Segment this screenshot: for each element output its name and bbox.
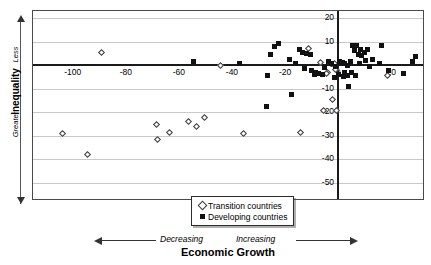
y-tick-label: -40 <box>306 153 334 163</box>
data-point-transition <box>153 121 160 128</box>
data-point-transition <box>154 136 161 143</box>
x-axis-title: Economic Growth <box>32 246 424 258</box>
data-point-developing <box>365 47 370 52</box>
data-point-developing <box>272 44 277 49</box>
legend-label-transition: Transition countries <box>208 201 282 211</box>
data-point-developing <box>268 52 273 57</box>
data-point-developing <box>308 52 313 57</box>
filled-square-icon <box>196 214 208 219</box>
x-axis-decreasing-line <box>102 240 156 241</box>
data-point-developing <box>352 48 357 53</box>
data-point-developing <box>265 73 270 78</box>
data-point-developing <box>342 70 347 75</box>
data-point-developing <box>367 64 372 69</box>
data-point-developing <box>346 84 351 89</box>
gridline-horizontal <box>33 18 423 19</box>
open-diamond-icon <box>196 202 208 209</box>
data-point-developing <box>353 73 358 78</box>
data-point-developing <box>341 74 346 79</box>
data-point-developing <box>333 64 338 69</box>
data-point-developing <box>348 59 353 64</box>
data-point-developing <box>302 66 307 71</box>
chart-legend: Transition countries Developing countrie… <box>191 196 294 226</box>
data-point-transition <box>84 151 91 158</box>
data-point-developing <box>289 92 294 97</box>
y-tick-label: -10 <box>306 83 334 93</box>
data-point-developing <box>293 61 298 66</box>
x-tick-label: -20 <box>271 67 299 77</box>
x-tick-label: -80 <box>112 67 140 77</box>
data-point-developing <box>320 72 325 77</box>
x-axis-left-arrow-icon <box>94 237 102 245</box>
data-point-transition <box>333 107 340 114</box>
data-point-developing <box>264 104 269 109</box>
data-point-developing <box>379 43 384 48</box>
y-axis-direction-less: Less <box>11 38 20 72</box>
y-axis-down-arrow-icon <box>17 197 25 204</box>
x-axis-line <box>33 64 423 66</box>
data-point-developing <box>401 71 406 76</box>
x-tick-label: -40 <box>218 67 246 77</box>
data-point-developing <box>312 72 317 77</box>
data-point-developing <box>377 61 382 66</box>
data-point-developing <box>237 61 242 66</box>
gridline-horizontal <box>33 136 423 137</box>
x-axis-direction-increasing: Increasing <box>236 234 275 244</box>
gridline-horizontal <box>33 159 423 160</box>
x-axis-direction-decreasing: Decreasing <box>160 234 203 244</box>
x-axis-increasing-line <box>296 240 350 241</box>
y-tick-label: 10 <box>306 36 334 46</box>
data-point-transition <box>297 128 304 135</box>
gridline-horizontal <box>33 183 423 184</box>
data-point-transition <box>166 128 173 135</box>
y-axis-line <box>337 11 339 199</box>
x-tick-label: -100 <box>59 67 87 77</box>
data-point-developing <box>336 72 341 77</box>
data-point-developing <box>410 59 415 64</box>
y-tick-label: -30 <box>306 130 334 140</box>
legend-item-transition: Transition countries <box>196 200 287 211</box>
data-point-transition <box>329 96 336 103</box>
data-point-transition <box>201 114 208 121</box>
x-axis-right-arrow-icon <box>350 237 358 245</box>
y-axis-direction-greater: Greater <box>11 104 20 146</box>
data-point-developing <box>191 59 196 64</box>
data-point-developing <box>322 65 327 70</box>
data-point-developing <box>413 54 418 59</box>
y-axis-up-arrow-icon <box>17 15 25 22</box>
plot-area: 20100-10-20-30-40-50-100-80-60-40-20020 <box>32 10 424 200</box>
y-tick-label: 20 <box>306 12 334 22</box>
y-axis-label-block: Inequality Less Greater <box>0 8 32 204</box>
gridline-horizontal <box>33 89 423 90</box>
data-point-transition <box>193 123 200 130</box>
gridline-horizontal <box>33 112 423 113</box>
x-tick-label: -60 <box>165 67 193 77</box>
legend-label-developing: Developing countries <box>208 212 287 222</box>
x-axis-direction-row: Decreasing Increasing <box>32 233 424 247</box>
gridline-horizontal <box>33 42 423 43</box>
legend-item-developing: Developing countries <box>196 211 287 222</box>
data-point-transition <box>185 118 192 125</box>
y-tick-label: -50 <box>306 177 334 187</box>
data-point-developing <box>287 57 292 62</box>
data-point-transition <box>98 49 105 56</box>
data-point-developing <box>357 61 362 66</box>
data-point-developing <box>363 58 368 63</box>
data-point-developing <box>370 57 375 62</box>
scatter-chart-figure: Inequality Less Greater 20100-10-20-30-4… <box>0 0 431 265</box>
data-point-developing <box>386 68 391 73</box>
